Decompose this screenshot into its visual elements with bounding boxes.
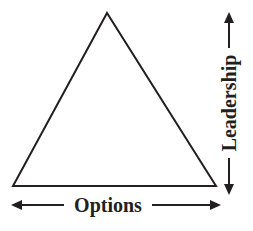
arrow-up-icon [224, 12, 234, 23]
options-arrow: Options [11, 194, 221, 217]
arrow-down-icon [224, 184, 234, 195]
arrow-right-icon [210, 200, 221, 210]
options-label: Options [74, 194, 142, 217]
leadership-label: Leadership [218, 55, 241, 152]
leadership-arrow: Leadership [218, 12, 241, 195]
arrow-left-icon [11, 200, 22, 210]
triangle-shape [13, 13, 216, 186]
triangle-diagram: Options Leadership [0, 0, 253, 231]
